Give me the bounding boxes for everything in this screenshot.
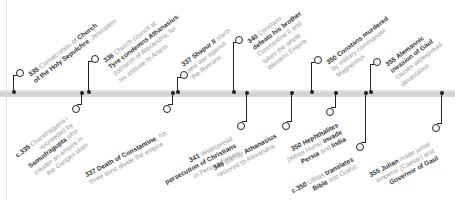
event-335-label: 335 Consecration of Church of the Holy S…	[27, 11, 118, 85]
page-edge-line	[6, 0, 7, 200]
timeline-bar	[0, 90, 455, 97]
event-340-label: 340 Constans defeats his brother Constan…	[246, 3, 318, 71]
event-355-below-label: 355 Julian made junior emperor (Caesar) …	[368, 140, 440, 194]
event-c335-label: c.335 Chandragupta I succeeded by Samudr…	[14, 115, 90, 186]
event-336-label: 336 Church council at Tyre condemns Atha…	[102, 6, 191, 85]
event-350-above-label: 350 Constans murdered by military comman…	[325, 15, 400, 80]
event-337-below-label: 337 Death of Constantine, his three sons…	[84, 129, 172, 186]
